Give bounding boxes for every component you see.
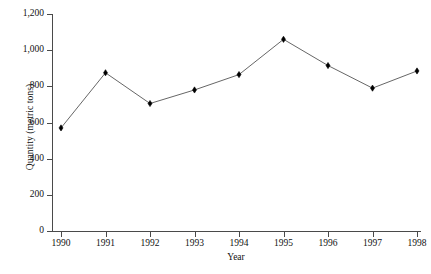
y-tick-label: 0 xyxy=(4,226,44,236)
x-tick-mark xyxy=(417,232,418,237)
data-point-marker xyxy=(415,68,419,74)
y-tick-mark xyxy=(47,231,52,232)
data-point-marker xyxy=(148,100,152,106)
x-axis-title: Year xyxy=(52,252,420,262)
x-tick-mark xyxy=(284,232,285,237)
data-point-marker xyxy=(371,85,375,91)
series-polyline xyxy=(61,39,417,128)
x-tick-mark xyxy=(328,232,329,237)
data-point-marker xyxy=(237,71,241,77)
y-tick-label: 200 xyxy=(4,190,44,200)
data-point-marker xyxy=(193,87,197,93)
x-tick-mark xyxy=(150,232,151,237)
x-tick-mark xyxy=(195,232,196,237)
y-tick-label: 1,200 xyxy=(4,9,44,19)
series-line-quantity xyxy=(52,14,420,231)
x-tick-mark xyxy=(61,232,62,237)
plot-area xyxy=(52,14,420,231)
y-tick-label: 1,000 xyxy=(4,45,44,55)
y-tick-label: 400 xyxy=(4,154,44,164)
data-point-marker xyxy=(326,62,330,68)
x-tick-mark xyxy=(239,232,240,237)
y-tick-label: 800 xyxy=(4,81,44,91)
y-tick-label: 600 xyxy=(4,118,44,128)
x-tick-label: 1998 xyxy=(387,238,431,249)
data-point-marker xyxy=(282,36,286,42)
x-axis-line xyxy=(52,231,421,232)
x-tick-mark xyxy=(373,232,374,237)
y-axis-title: Quantity (metric tons) xyxy=(25,42,35,212)
x-tick-mark xyxy=(106,232,107,237)
